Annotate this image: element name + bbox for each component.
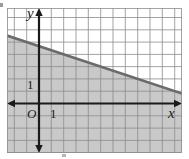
shaded-solution-region (7, 36, 182, 153)
y-axis-arrow-up (35, 8, 42, 16)
y-tick-label-one: 1 (27, 78, 34, 91)
artifact-speck-bottom (62, 154, 66, 157)
x-axis-label: x (168, 106, 175, 121)
artifact-speck-top-left (0, 3, 3, 7)
y-axis-label: y (27, 6, 34, 21)
x-tick-label-one: 1 (50, 107, 57, 120)
origin-label: O (27, 107, 36, 120)
coordinate-plane-figure: y x O 1 1 (0, 0, 189, 159)
